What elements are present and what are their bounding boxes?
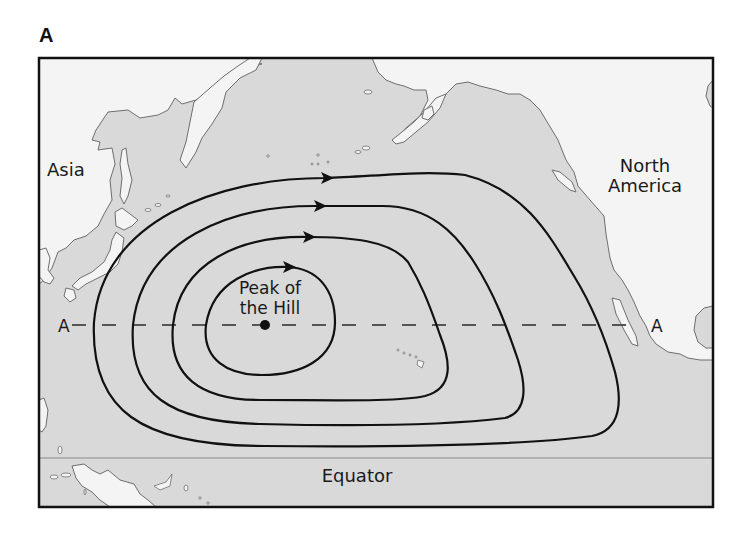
label-north-america-1: North [620,155,670,176]
label-north-america-2: America [608,175,682,196]
label-asia: Asia [47,159,85,180]
label-section-left: A [58,316,70,336]
label-equator: Equator [322,465,393,486]
peak-point [260,320,270,330]
pacific-gyre-map: Asia North America Peak of the Hill Equa… [0,0,738,538]
label-peak-2: the Hill [240,298,300,318]
label-section-right: A [651,316,663,336]
label-peak-1: Peak of [239,278,302,298]
